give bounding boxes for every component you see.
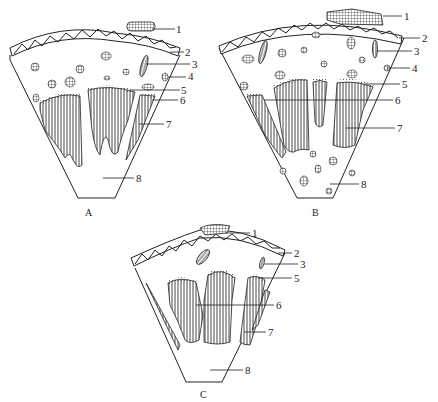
panel-b-fiber-bundle-middle [313,81,327,127]
panel-c-fiber-bundle-middle [204,272,235,344]
panel-a-fiber-bundle-middle [88,87,135,155]
panel-c: 1 2 3 5 6 7 8 C [131,224,306,400]
panel-b-label-4: 4 [412,62,418,74]
panel-a-cortex-band [10,30,180,56]
panel-c-label-6: 6 [276,299,282,311]
panel-b: 1 2 3 4 5 6 7 8 B [219,9,428,218]
panel-a: 1 2 3 4 5 6 7 8 A [10,22,198,218]
panel-b-cell-1 [327,9,383,25]
panel-c-label-3: 3 [300,258,306,270]
panel-b-label-2: 2 [422,32,428,44]
panel-b-fiber-bundle-right [333,82,373,147]
panel-c-caption: C [200,389,207,400]
panel-c-label-2: 2 [294,247,300,259]
panel-b-label-7: 7 [397,122,403,134]
panel-b-label-8: 8 [361,178,367,190]
panel-c-cell-3a [194,248,212,267]
panel-a-cell-3 [138,55,149,78]
diagram-canvas: 1 2 3 4 5 6 7 8 A [0,0,438,402]
panel-b-label-5: 5 [402,78,408,90]
panel-c-label-1: 1 [252,227,258,239]
panel-a-caption: A [85,207,93,218]
panel-a-label-7: 7 [166,118,172,130]
panel-c-cell-1 [200,224,230,235]
panel-c-cell-3b [259,257,266,270]
panel-b-cell-3b [373,40,378,58]
panel-a-label-2: 2 [185,46,191,58]
panel-a-cell-1 [127,22,155,31]
panel-c-label-5: 5 [294,272,300,284]
panel-a-fiber-bundle-left [40,95,82,167]
panel-a-label-1: 1 [176,23,182,35]
panel-b-caption: B [312,207,319,218]
panel-b-label-1: 1 [404,10,410,22]
panel-b-label-3: 3 [414,45,420,57]
panel-b-cell-3a [257,40,269,65]
panel-a-label-6: 6 [180,94,186,106]
panel-c-label-7: 7 [268,326,274,338]
panel-c-label-8: 8 [245,364,251,376]
panel-b-label-6: 6 [395,94,401,106]
panel-a-label-4: 4 [188,70,194,82]
panel-a-label-8: 8 [136,172,142,184]
panel-a-label-3: 3 [192,58,198,70]
